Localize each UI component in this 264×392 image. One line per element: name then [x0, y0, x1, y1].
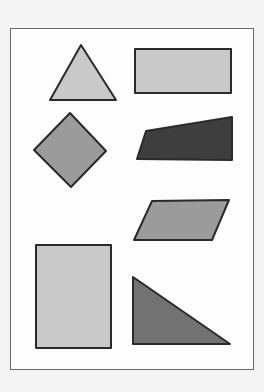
wide-rectangle-shape [135, 49, 231, 93]
right-triangle-shape [133, 277, 230, 344]
shapes-canvas [0, 0, 264, 392]
parallelogram-shape [134, 200, 229, 240]
trapezoid-shape [137, 117, 232, 160]
tall-rectangle-shape [36, 245, 111, 348]
triangle-shape [50, 45, 116, 100]
diamond-shape [34, 113, 106, 187]
